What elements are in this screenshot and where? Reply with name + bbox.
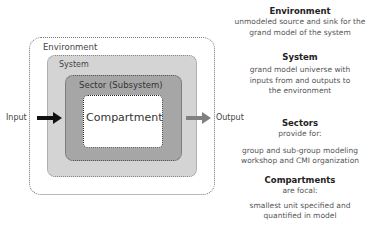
legend-sectors: Sectors provide for: group and sub-group…: [226, 118, 374, 167]
legend-sectors-line: workshop and CMI organization: [226, 156, 374, 167]
input-arrow-icon: [37, 112, 63, 124]
legend-system: System grand model universe with inputs …: [226, 52, 374, 97]
environment-label: Environment: [43, 42, 97, 52]
legend-environment-line: grand model of the system: [226, 28, 374, 39]
legend-compartments: Compartments are focal: smallest unit sp…: [226, 175, 374, 222]
legend-sectors-line: group and sub-group modeling: [226, 146, 374, 157]
legend-compartments-line: are focal:: [226, 186, 374, 197]
legend-compartments-line: smallest unit specified and: [226, 201, 374, 212]
legend-system-line: inputs from and outputs to: [226, 76, 374, 87]
legend-compartments-heading: Compartments: [226, 175, 374, 186]
legend-sectors-heading: Sectors: [226, 118, 374, 129]
input-label: Input: [6, 113, 27, 122]
system-label: System: [59, 60, 89, 69]
compartment-label: Compartment: [86, 111, 162, 124]
legend-compartments-line: quantified in model: [226, 211, 374, 222]
legend-system-line: the environment: [226, 86, 374, 97]
legend-sectors-line: provide for:: [226, 129, 374, 140]
sector-label: Sector (Subsystem): [79, 80, 163, 90]
legend-system-heading: System: [226, 52, 374, 63]
output-arrow-icon: [186, 112, 212, 124]
legend-system-line: grand model universe with: [226, 65, 374, 76]
legend-environment-heading: Environment: [226, 6, 374, 17]
legend-environment: Environment unmodeled source and sink fo…: [226, 6, 374, 38]
legend-environment-line: unmodeled source and sink for the: [226, 17, 374, 28]
